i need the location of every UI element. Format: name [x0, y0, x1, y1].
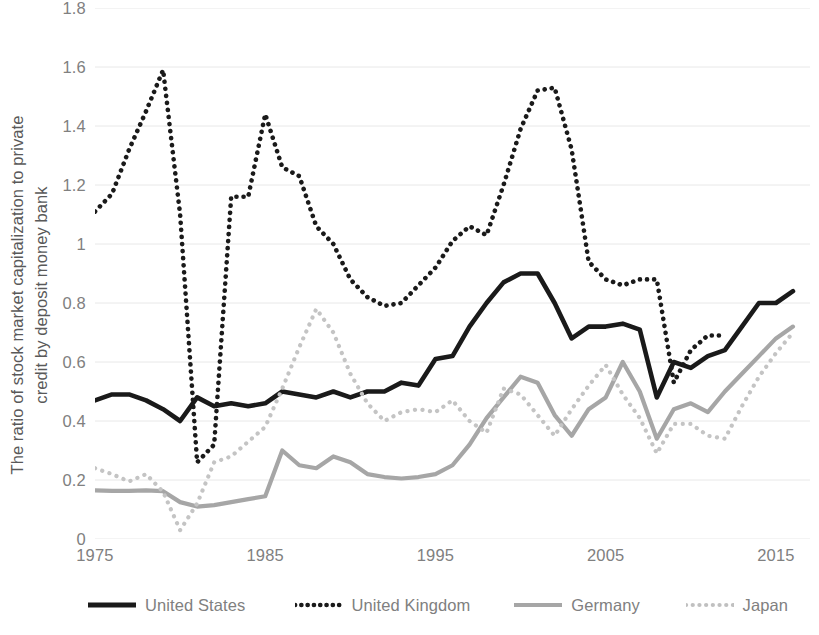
series-lines [95, 70, 793, 530]
x-axis-tick-label: 2015 [757, 546, 795, 565]
plot-svg [95, 8, 810, 539]
solid-thick-black-line-icon [88, 598, 136, 612]
legend-label: United States [145, 596, 245, 615]
legend-label: Japan [743, 596, 788, 615]
legend-label: Germany [571, 596, 640, 615]
y-axis-tick-label: 1 [40, 235, 86, 254]
series-line-united-states [95, 274, 793, 422]
chart-legend: United StatesUnited KingdomGermanyJapan [88, 590, 788, 620]
x-axis-tick-label: 1995 [417, 546, 455, 565]
x-axis-tick-label: 1975 [76, 546, 114, 565]
dotted-black-line-icon [295, 598, 343, 612]
dotted-light-gray-line-icon [686, 598, 734, 612]
y-axis-tick-labels: 1.81.61.41.210.80.60.40.20 [40, 0, 86, 560]
series-line-japan [95, 309, 793, 530]
x-axis-tick-label: 1985 [246, 546, 284, 565]
chart-container: The ratio of stock market capitalization… [0, 0, 819, 635]
y-axis-tick-label: 1.8 [40, 0, 86, 18]
y-axis-tick-label: 1.6 [40, 58, 86, 77]
gridlines [95, 8, 810, 539]
legend-label: United Kingdom [352, 596, 471, 615]
legend-item-germany[interactable]: Germany [514, 596, 640, 615]
y-axis-tick-label: 0.6 [40, 353, 86, 372]
y-axis-tick-label: 1.4 [40, 117, 86, 136]
legend-item-japan[interactable]: Japan [686, 596, 788, 615]
y-axis-tick-label: 0.2 [40, 471, 86, 490]
y-axis-tick-label: 0.8 [40, 294, 86, 313]
y-axis-tick-label: 1.2 [40, 176, 86, 195]
x-axis-tick-label: 2005 [587, 546, 625, 565]
solid-gray-line-icon [514, 598, 562, 612]
plot-area [95, 8, 810, 539]
legend-item-united-kingdom[interactable]: United Kingdom [295, 596, 471, 615]
y-axis-tick-label: 0.4 [40, 412, 86, 431]
legend-item-united-states[interactable]: United States [88, 596, 245, 615]
